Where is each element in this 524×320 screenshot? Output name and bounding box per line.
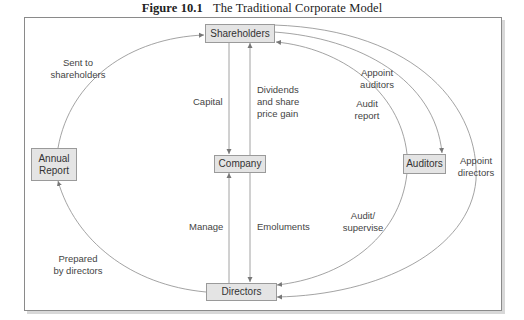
shareholders-box: Shareholders: [205, 24, 275, 43]
company-label: Company: [219, 158, 262, 170]
label-sent-to-shareholders: Sent to shareholders: [48, 57, 108, 81]
arrow-sent-to-shareholders: [58, 35, 204, 148]
label-emoluments: Emoluments: [257, 221, 310, 233]
label-prepared-by-directors: Prepared by directors: [48, 253, 108, 277]
directors-label: Directors: [221, 286, 261, 298]
label-audit-supervise: Audit/ supervise: [340, 210, 386, 234]
label-capital: Capital: [193, 96, 223, 108]
directors-box: Directors: [206, 283, 277, 301]
annual-report-label-1: Annual: [38, 153, 69, 165]
shareholders-label: Shareholders: [210, 28, 269, 40]
annual-report-label-2: Report: [39, 165, 69, 177]
label-manage: Manage: [189, 221, 223, 233]
label-appoint-auditors: Appoint auditors: [354, 67, 400, 91]
annual-report-box: Annual Report: [31, 148, 77, 181]
label-dividends: Dividends and share price gain: [257, 84, 299, 120]
auditors-label: Auditors: [406, 158, 443, 170]
auditors-box: Auditors: [403, 154, 446, 174]
company-box: Company: [214, 155, 266, 173]
label-appoint-directors: Appoint directors: [454, 155, 498, 179]
label-audit-report: Audit report: [352, 98, 382, 122]
